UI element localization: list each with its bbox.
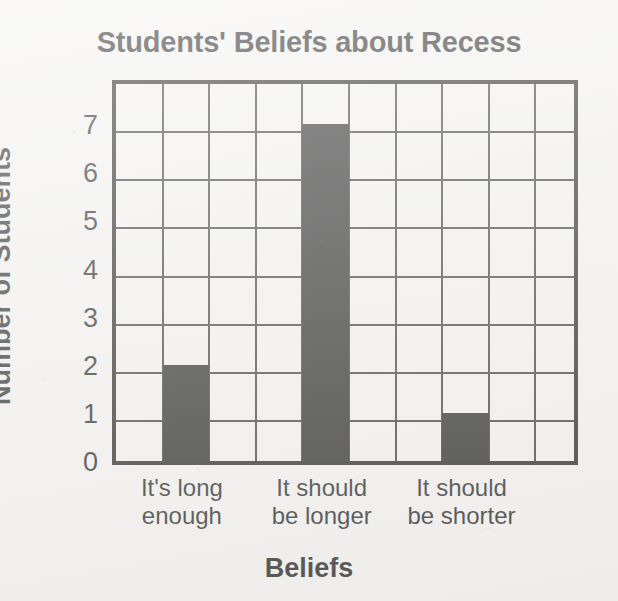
bar-chart-figure: Students' Beliefs about Recess Number of… (0, 0, 618, 601)
y-axis-tick-label: 6 (58, 160, 98, 187)
x-axis-category-label: It shouldbe shorter (367, 474, 557, 531)
bars-layer (116, 84, 574, 461)
y-axis-tick-label: 0 (58, 449, 98, 476)
bar (302, 124, 349, 461)
x-axis-category-label-line: be shorter (367, 502, 557, 530)
x-axis-title: Beliefs (0, 553, 618, 584)
bar (442, 413, 489, 461)
y-axis-tick-label: 7 (58, 112, 98, 139)
plot-area (112, 80, 578, 465)
x-axis-category-label-line: It should (367, 474, 557, 502)
chart-title: Students' Beliefs about Recess (0, 26, 618, 59)
y-axis-title: Number of Students (0, 126, 17, 426)
bar (163, 365, 210, 461)
y-axis-tick-label: 1 (58, 401, 98, 428)
y-axis-tick-label: 4 (58, 257, 98, 284)
y-axis-tick-label: 2 (58, 353, 98, 380)
y-axis-tick-label: 3 (58, 305, 98, 332)
y-axis-tick-label: 5 (58, 208, 98, 235)
